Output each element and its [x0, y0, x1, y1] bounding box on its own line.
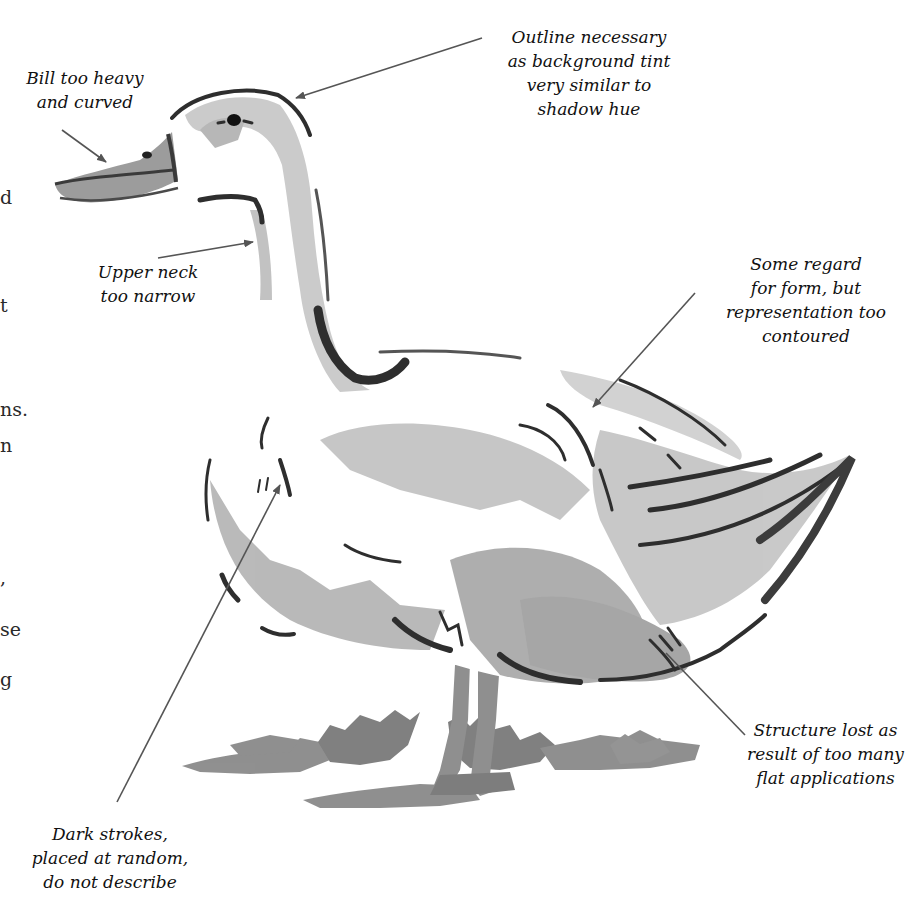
bill — [55, 132, 178, 202]
annotation-line: contoured — [700, 324, 912, 348]
arrow-outline — [296, 38, 482, 98]
arrow-bill — [62, 130, 106, 162]
annotation-line: representation too — [700, 300, 912, 324]
annotation-line: shadow hue — [478, 97, 700, 121]
annotation-bill: Bill too heavy and curved — [0, 66, 170, 114]
annotation-strokes: Dark strokes, placed at random, do not d… — [20, 822, 200, 894]
annotation-line: Structure lost as — [728, 718, 923, 742]
arrow-neck — [158, 242, 253, 258]
annotation-line: Bill too heavy — [0, 66, 170, 90]
annotation-line: for form, but — [700, 276, 912, 300]
annotation-line: as background tint — [478, 49, 700, 73]
annotation-line: very similar to — [478, 73, 700, 97]
annotation-line: Upper neck — [78, 260, 218, 284]
annotation-line: result of too many — [728, 742, 923, 766]
annotation-line: do not describe — [20, 870, 200, 894]
annotation-outline: Outline necessary as background tint ver… — [478, 25, 700, 121]
annotation-neck: Upper neck too narrow — [78, 260, 218, 308]
annotation-line: too narrow — [78, 284, 218, 308]
annotation-line: Dark strokes, — [20, 822, 200, 846]
annotation-line: and curved — [0, 90, 170, 114]
annotation-structure: Structure lost as result of too many fla… — [728, 718, 923, 790]
annotation-line: Some regard — [700, 252, 912, 276]
annotation-line: Outline necessary — [478, 25, 700, 49]
annotation-line: placed at random, — [20, 846, 200, 870]
annotation-line: flat applications — [728, 766, 923, 790]
book-page: d t ns. n , se g — [0, 0, 923, 905]
annotation-form: Some regard for form, but representation… — [700, 252, 912, 348]
